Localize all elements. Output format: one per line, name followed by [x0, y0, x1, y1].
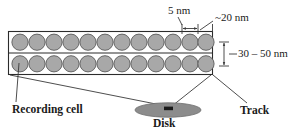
recording-cell — [80, 56, 96, 72]
vertical-dimension-group — [219, 42, 237, 66]
recording-cell — [12, 56, 28, 72]
callout-label-disk: Disk — [153, 118, 175, 130]
recording-cell — [97, 56, 113, 72]
recording-cell — [12, 34, 28, 50]
pitch-leader-line — [200, 21, 213, 30]
recording-cell — [131, 34, 147, 50]
recording-cell — [29, 34, 45, 50]
magnify-leader-right — [172, 75, 211, 106]
recording-cell — [114, 34, 130, 50]
disk-graphic — [135, 103, 201, 117]
recording-cell-diagram: 5 nm ~20 nm 30 – 50 nm Recording cell Di… — [0, 0, 305, 131]
recording-cell — [198, 34, 214, 50]
recording-cell — [46, 56, 62, 72]
recording-cell — [63, 56, 79, 72]
recording-cell — [131, 56, 147, 72]
gap-leader-line — [178, 17, 182, 25]
recording-cell — [29, 56, 45, 72]
callout-label-recording-cell: Recording cell — [12, 104, 83, 116]
recording-cell — [63, 34, 79, 50]
callout-label-track: Track — [240, 105, 269, 117]
recording-cell — [80, 34, 96, 50]
recording-cell — [148, 56, 164, 72]
recording-cell — [165, 56, 181, 72]
dimension-label-cell-gap: 5 nm — [168, 5, 190, 16]
recording-cell — [46, 34, 62, 50]
recording-cell — [97, 34, 113, 50]
recording-cell — [182, 56, 198, 72]
recording-cell — [114, 56, 130, 72]
recording-cell — [165, 34, 181, 50]
recording-cell — [198, 56, 214, 72]
recording-cell — [182, 34, 198, 50]
disk-recorded-mark — [164, 107, 173, 111]
track-leader — [213, 75, 247, 103]
dimension-label-cell-pitch: ~20 nm — [215, 12, 249, 23]
dimension-label-track-spacing: 30 – 50 nm — [238, 48, 288, 59]
magnify-leader-left — [10, 75, 166, 106]
recording-cell — [148, 34, 164, 50]
